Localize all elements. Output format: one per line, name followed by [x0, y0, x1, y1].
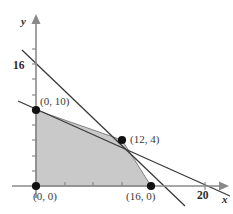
- vertex-dot-intersection: [118, 136, 126, 144]
- coordinate-plane-svg: 16 20 (0, 10) (12, 4) (0, 0) (16, 0) y x: [0, 0, 233, 214]
- vertex-dot-y-intercept: [32, 106, 40, 114]
- point-label-x-intercept: (16, 0): [126, 190, 156, 203]
- point-label-y-intercept: (0, 10): [40, 95, 70, 108]
- feasible-region-shading: [36, 110, 151, 186]
- y-tick-label-16: 16: [13, 59, 25, 71]
- graph-figure: 16 20 (0, 10) (12, 4) (0, 0) (16, 0) y x: [0, 0, 233, 214]
- vertex-dot-x-intercept: [147, 182, 155, 190]
- vertex-dot-origin: [32, 182, 40, 190]
- point-label-origin: (0, 0): [33, 190, 57, 203]
- y-axis-label: y: [19, 15, 26, 27]
- x-axis-arrow-icon: [219, 182, 229, 191]
- x-tick-label-20: 20: [197, 189, 209, 201]
- point-label-intersection: (12, 4): [130, 133, 160, 146]
- x-axis-label: x: [221, 193, 228, 205]
- y-axis-arrow-icon: [32, 14, 41, 24]
